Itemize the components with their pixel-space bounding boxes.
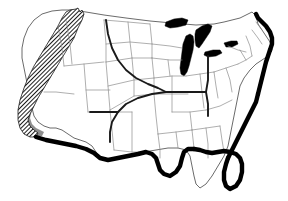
map-figure xyxy=(0,0,288,201)
united-states-map xyxy=(0,0,288,201)
